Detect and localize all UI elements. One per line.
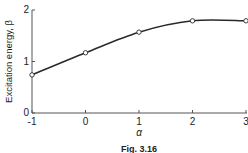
x-axis-label: α (136, 127, 142, 138)
x-tick-label: 2 (190, 116, 196, 127)
data-point-marker (244, 19, 248, 23)
figure-caption: Fig. 3.16 (121, 144, 157, 153)
y-tick-label: 1 (23, 56, 29, 67)
data-point-marker (83, 51, 87, 55)
data-point-marker (137, 30, 141, 34)
chart: -10123012αExcitation energy, βFig. 3.16 (0, 0, 248, 153)
series-line (32, 20, 246, 75)
y-tick-label: 2 (23, 4, 29, 15)
x-tick-label: 1 (136, 116, 142, 127)
x-tick-label: 3 (243, 116, 248, 127)
y-tick-label: 0 (23, 107, 29, 118)
axis-labels: -10123012αExcitation energy, βFig. 3.16 (3, 4, 248, 153)
data-point-marker (30, 73, 34, 77)
x-tick-label: 0 (83, 116, 89, 127)
data-series (30, 19, 248, 77)
y-axis-label: Excitation energy, β (3, 20, 14, 103)
data-point-marker (190, 19, 194, 23)
